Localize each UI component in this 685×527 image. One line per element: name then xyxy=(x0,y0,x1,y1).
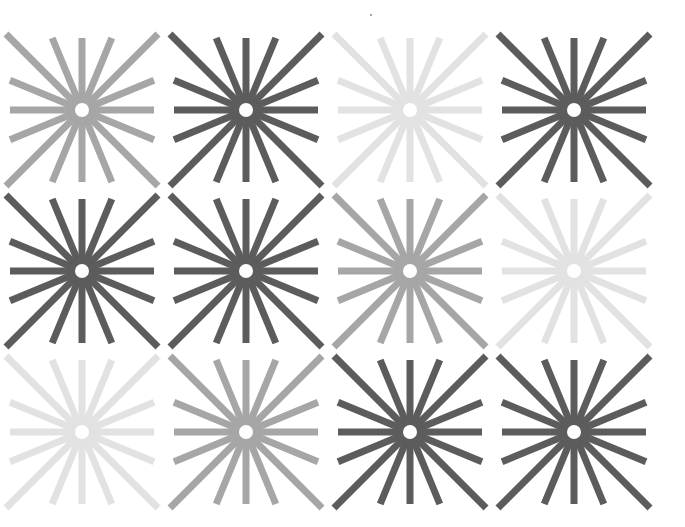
starburst-mid xyxy=(334,195,486,347)
ray xyxy=(82,34,158,110)
ray xyxy=(498,110,574,186)
ray xyxy=(574,110,650,186)
ray xyxy=(82,195,158,271)
starburst-canvas xyxy=(0,0,685,527)
ray xyxy=(498,432,574,508)
ray xyxy=(574,34,650,110)
hub-hole xyxy=(567,425,581,439)
starburst-dark xyxy=(498,356,650,508)
ray xyxy=(410,195,486,271)
starburst-dark xyxy=(334,356,486,508)
starburst-dark xyxy=(6,195,158,347)
ray xyxy=(6,195,82,271)
ray xyxy=(574,356,650,432)
ray xyxy=(246,34,322,110)
hub-hole xyxy=(567,103,581,117)
hub-hole xyxy=(75,425,89,439)
starburst-dark xyxy=(170,195,322,347)
ray xyxy=(410,271,486,347)
scan-speck xyxy=(370,14,372,16)
ray xyxy=(82,356,158,432)
starburst-dark xyxy=(170,34,322,186)
hub-hole xyxy=(403,425,417,439)
ray xyxy=(334,432,410,508)
ray xyxy=(170,110,246,186)
ray xyxy=(574,271,650,347)
hub-hole xyxy=(239,103,253,117)
ray xyxy=(170,356,246,432)
starburst-light xyxy=(334,34,486,186)
ray xyxy=(82,110,158,186)
ray xyxy=(6,34,82,110)
starburst-dark xyxy=(498,34,650,186)
ray xyxy=(246,271,322,347)
ray xyxy=(498,271,574,347)
ray xyxy=(410,34,486,110)
ray xyxy=(82,271,158,347)
hub-hole xyxy=(239,425,253,439)
ray xyxy=(410,432,486,508)
ray xyxy=(334,271,410,347)
ray xyxy=(410,356,486,432)
ray xyxy=(246,195,322,271)
ray xyxy=(170,195,246,271)
starburst-light xyxy=(498,195,650,347)
hub-hole xyxy=(75,103,89,117)
ray xyxy=(6,356,82,432)
ray xyxy=(334,195,410,271)
hub-hole xyxy=(75,264,89,278)
ray xyxy=(246,432,322,508)
starburst-mid xyxy=(6,34,158,186)
hub-hole xyxy=(403,264,417,278)
ray xyxy=(334,356,410,432)
hub-hole xyxy=(567,264,581,278)
ray xyxy=(410,110,486,186)
ray xyxy=(498,34,574,110)
ray xyxy=(170,34,246,110)
ray xyxy=(498,195,574,271)
ray xyxy=(170,271,246,347)
starburst-grid xyxy=(0,0,685,527)
starburst-mid xyxy=(170,356,322,508)
ray xyxy=(334,110,410,186)
ray xyxy=(82,432,158,508)
ray xyxy=(334,34,410,110)
hub-hole xyxy=(403,103,417,117)
hub-hole xyxy=(239,264,253,278)
ray xyxy=(6,110,82,186)
starburst-light xyxy=(6,356,158,508)
ray xyxy=(574,195,650,271)
ray xyxy=(246,110,322,186)
ray xyxy=(246,356,322,432)
ray xyxy=(6,432,82,508)
ray xyxy=(574,432,650,508)
ray xyxy=(498,356,574,432)
ray xyxy=(6,271,82,347)
ray xyxy=(170,432,246,508)
